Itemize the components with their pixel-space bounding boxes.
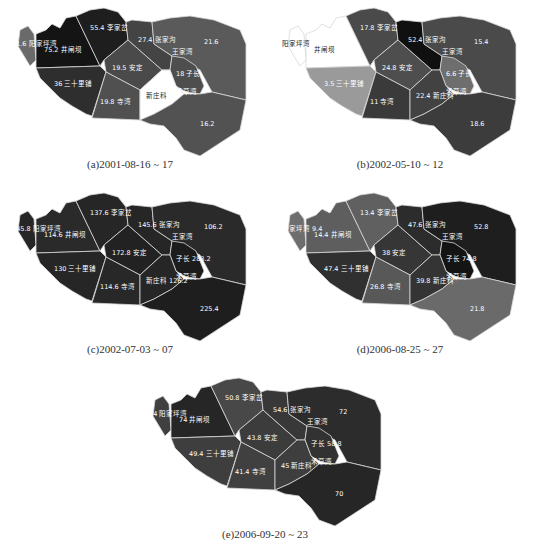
label-east-north: 52.8 (474, 223, 488, 231)
label-anning: 38 安定 (382, 248, 406, 257)
label-zhangjiagou: 27.4 张家沟 (138, 35, 176, 44)
label-sanshilipu: 130 三十里铺 (54, 264, 96, 273)
panel-caption: (a)2001-08-16 ~ 17 (0, 158, 260, 170)
label-siwan: 114.6 寺湾 (100, 282, 135, 291)
label-siwan: 26.8 寺湾 (370, 282, 401, 291)
map-panel-c: 145.8 阳家坪湾 114.6 井闸坝 137.6 李家岔 130 三十里铺 … (0, 185, 260, 365)
label-siwan: 11 寺湾 (370, 97, 394, 106)
label-zichang: 子长 283.2 (176, 254, 211, 263)
label-south: 16.2 (200, 120, 214, 128)
label-zichang: 6.6 子长 (446, 69, 472, 78)
label-zichang: 18 子长 (176, 69, 200, 78)
label-wangjiawan: 王家湾 (172, 47, 193, 56)
label-south: 70 (335, 490, 343, 498)
label-sanshilipu: 49.4 三十里铺 (189, 449, 234, 458)
label-lijiatuo: 50.8 李家岔 (225, 393, 263, 402)
map-labels: 阳家坪湾 9.4 14.4 井闸坝 13.4 李家岔 47.4 三十里铺 38 … (270, 185, 530, 345)
label-jingkou: 114.6 井闸坝 (44, 230, 86, 239)
label-anning: 172.8 安定 (112, 248, 147, 257)
label-siwan: 19.8 寺湾 (100, 97, 131, 106)
label-east-north: 106.2 (204, 223, 223, 231)
label-heyanwan: 禾草湾 (176, 272, 197, 281)
map-labels: 3.4 阳家坪湾 74 井闸坝 50.8 李家岔 49.4 三十里铺 43.8 … (135, 370, 395, 530)
map-panel-a: 11.6 阳家坪湾 75.2 井闸坝 55.4 李家岔 36 三十里铺 19.5… (0, 0, 260, 180)
label-lijiatuo: 55.4 李家岔 (90, 23, 128, 32)
label-heyanwan: 禾草湾 (176, 87, 197, 96)
map-panel-e: 3.4 阳家坪湾 74 井闸坝 50.8 李家岔 49.4 三十里铺 43.8 … (135, 370, 395, 550)
map-panel-d: 阳家坪湾 9.4 14.4 井闸坝 13.4 李家岔 47.4 三十里铺 38 … (270, 185, 530, 365)
map-labels: 阳家坪湾 井闸坝 17.8 李家岔 3.5 三十里铺 24.8 安定 11 寺湾… (270, 0, 530, 160)
label-lijiatuo: 17.8 李家岔 (360, 23, 398, 32)
label-heyanwan: 禾草湾 (311, 457, 332, 466)
label-jingkou: 74 井闸坝 (179, 415, 210, 424)
label-east-north: 21.6 (204, 38, 218, 46)
label-anning: 24.8 安定 (382, 63, 413, 72)
label-wangjiawan: 王家湾 (442, 47, 463, 56)
label-jingkou: 井闸坝 (314, 45, 335, 54)
label-anning: 19.5 安定 (112, 63, 143, 72)
label-jingkou: 14.4 井闸坝 (314, 230, 352, 239)
label-zichang: 子长 74.8 (446, 254, 477, 263)
label-south: 21.8 (470, 305, 484, 313)
label-zhangjiagou: 47.6 张家沟 (408, 220, 446, 229)
label-zhangjiagou: 54.6 张家沟 (273, 405, 311, 414)
label-siwan: 41.4 寺湾 (235, 467, 266, 476)
label-lijiatuo: 13.4 李家岔 (360, 208, 398, 217)
map-labels: 145.8 阳家坪湾 114.6 井闸坝 137.6 李家岔 130 三十里铺 … (0, 185, 260, 345)
label-zhangjiagou: 145.6 张家沟 (138, 220, 180, 229)
label-wangjiawan: 王家湾 (172, 232, 193, 241)
label-heyanwan: 禾草湾 (446, 272, 467, 281)
panel-caption: (b)2002-05-10 ~ 12 (270, 158, 530, 170)
label-east-north: 15.4 (474, 38, 488, 46)
label-sanshilipu: 47.4 三十里铺 (324, 264, 369, 273)
label-wangjiawan: 王家湾 (442, 232, 463, 241)
panel-caption: (d)2006-08-25 ~ 27 (270, 343, 530, 355)
label-zhangjiagou: 52.4 张家沟 (408, 35, 446, 44)
label-anning: 43.8 安定 (247, 433, 278, 442)
label-sanshilipu: 3.5 三十里铺 (324, 79, 364, 88)
label-yangjiaping: 阳家坪湾 (282, 39, 310, 48)
label-xinzhuang: 45 新庄科 (281, 461, 312, 470)
panel-caption: (e)2006-09-20 ~ 23 (135, 528, 395, 540)
label-lijiatuo: 137.6 李家岔 (90, 208, 132, 217)
label-zichang: 子长 58.8 (311, 439, 342, 448)
label-east-north: 72 (339, 408, 347, 416)
label-heyanwan: 禾草湾 (446, 87, 467, 96)
map-panel-b: 阳家坪湾 井闸坝 17.8 李家岔 3.5 三十里铺 24.8 安定 11 寺湾… (270, 0, 530, 180)
panel-caption: (c)2002-07-03 ~ 07 (0, 343, 260, 355)
map-labels: 11.6 阳家坪湾 75.2 井闸坝 55.4 李家岔 36 三十里铺 19.5… (0, 0, 260, 160)
label-wangjiawan: 王家湾 (307, 417, 328, 426)
label-south: 225.4 (200, 305, 219, 313)
label-sanshilipu: 36 三十里铺 (54, 79, 92, 88)
label-jingkou: 75.2 井闸坝 (44, 45, 82, 54)
label-south: 18.6 (470, 120, 484, 128)
label-xinzhuang: 新庄科 (146, 91, 167, 100)
